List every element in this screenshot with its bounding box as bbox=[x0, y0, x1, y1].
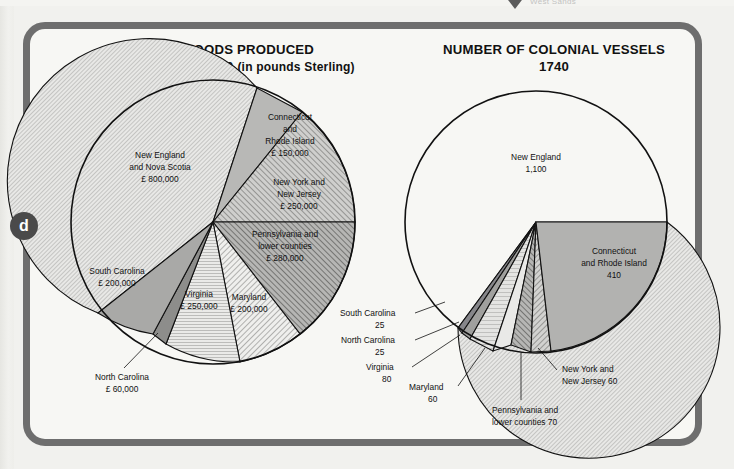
vessels-label-new-york-new-jersey-l2: New Jersey 60 bbox=[562, 376, 618, 386]
label-virginia-val: £ 250,000 bbox=[180, 301, 218, 311]
screenshot-root: West Sands d VALUE OF GOODS PRODUCED IN … bbox=[0, 0, 734, 469]
label-new-england-nova-scotia-l1: New England bbox=[135, 150, 185, 160]
leader-vessels-north-carolina bbox=[415, 322, 459, 340]
pie-chart-value-of-goods: New England and Nova Scotia £ 800,000 Co… bbox=[7, 39, 355, 394]
vessels-label-maryland: Maryland bbox=[409, 382, 444, 392]
vessels-label-north-carolina-val: 25 bbox=[375, 347, 385, 357]
label-connecticut-l2: and bbox=[283, 124, 297, 134]
label-south-carolina-val: £ 200,000 bbox=[98, 278, 136, 288]
vessels-label-new-york-new-jersey-l1: New York and bbox=[562, 364, 614, 374]
label-maryland-val: £ 200,000 bbox=[230, 304, 268, 314]
vessels-label-north-carolina: North Carolina bbox=[341, 335, 395, 345]
vessels-label-new-england-val: 1,100 bbox=[526, 164, 547, 174]
label-north-carolina: North Carolina bbox=[95, 372, 149, 382]
label-new-england-nova-scotia-l2: and Nova Scotia bbox=[129, 162, 191, 172]
vessels-label-connecticut-l2: and Rhode Island bbox=[581, 258, 647, 268]
label-ny-nj-l2: New Jersey bbox=[277, 189, 322, 199]
leader-vessels-virginia bbox=[412, 335, 460, 367]
figure-badge-d: d bbox=[10, 212, 38, 240]
pie-chart-colonial-vessels: New England 1,100 Connecticut and Rhode … bbox=[340, 91, 720, 458]
label-north-carolina-val: £ 60,000 bbox=[106, 384, 139, 394]
label-ny-nj-val: £ 250,000 bbox=[280, 201, 318, 211]
vessels-label-connecticut-l1: Connecticut bbox=[592, 246, 637, 256]
vessels-label-virginia-val: 80 bbox=[382, 374, 392, 384]
label-pennsylvania-l2: lower counties bbox=[258, 241, 312, 251]
vessels-label-connecticut-val: 410 bbox=[607, 270, 621, 280]
vessels-label-south-carolina: South Carolina bbox=[340, 308, 396, 318]
label-connecticut-l3: Rhode Island bbox=[265, 136, 315, 146]
label-virginia: Virginia bbox=[185, 289, 213, 299]
label-maryland: Maryland bbox=[232, 292, 267, 302]
label-connecticut-val: £ 150,000 bbox=[271, 148, 309, 158]
label-pennsylvania-val: £ 280,000 bbox=[266, 253, 304, 263]
vessels-label-maryland-val: 60 bbox=[428, 394, 438, 404]
vessels-label-pennsylvania-l2: lower counties 70 bbox=[492, 417, 558, 427]
label-pennsylvania-l1: Pennsylvania and bbox=[252, 229, 318, 239]
pie-charts-canvas: New England and Nova Scotia £ 800,000 Co… bbox=[0, 0, 734, 469]
vessels-label-new-england: New England bbox=[511, 152, 561, 162]
vessels-label-pennsylvania-l1: Pennsylvania and bbox=[492, 405, 558, 415]
label-new-england-nova-scotia-val: £ 800,000 bbox=[141, 174, 179, 184]
label-ny-nj-l1: New York and bbox=[273, 177, 325, 187]
vessels-label-virginia: Virginia bbox=[366, 362, 394, 372]
label-connecticut-l1: Connecticut bbox=[268, 112, 313, 122]
vessels-label-south-carolina-val: 25 bbox=[375, 320, 385, 330]
label-south-carolina: South Carolina bbox=[89, 266, 145, 276]
